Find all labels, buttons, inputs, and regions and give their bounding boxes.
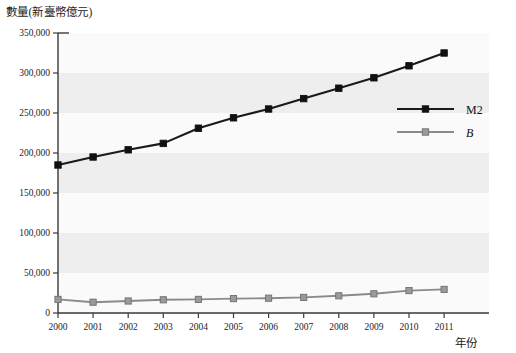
svg-text:2006: 2006 [259,322,278,332]
x-axis-ticks [58,313,444,318]
svg-text:100,000: 100,000 [19,228,50,238]
svg-text:2004: 2004 [189,322,208,332]
svg-text:2003: 2003 [154,322,173,332]
y-axis-ticks [53,33,58,313]
legend-item-label: M2 [466,103,483,117]
plot-background-bands [58,33,489,313]
svg-text:50,000: 50,000 [24,268,50,278]
svg-text:150,000: 150,000 [19,188,50,198]
svg-text:2010: 2010 [400,322,419,332]
svg-text:2001: 2001 [84,322,103,332]
svg-text:350,000: 350,000 [19,28,50,38]
svg-text:2009: 2009 [364,322,383,332]
x-axis-tick-labels: 2000200120022003200420052006200720082009… [49,322,454,332]
svg-text:2007: 2007 [294,322,313,332]
line-chart-plot: 050,000100,000150,000200,000250,000300,0… [0,0,516,353]
svg-text:250,000: 250,000 [19,108,50,118]
svg-text:300,000: 300,000 [19,68,50,78]
chart-container: 數量(新臺幣億元) 年份 050,000100,000150,000200,00… [0,0,516,353]
svg-text:2005: 2005 [224,322,243,332]
y-axis-tick-labels: 050,000100,000150,000200,000250,000300,0… [19,28,50,318]
svg-text:200,000: 200,000 [19,148,50,158]
svg-text:2002: 2002 [119,322,138,332]
legend-item-label: B [466,126,474,140]
svg-text:0: 0 [45,308,50,318]
svg-text:2011: 2011 [435,322,454,332]
svg-text:2000: 2000 [49,322,68,332]
svg-text:2008: 2008 [329,322,348,332]
